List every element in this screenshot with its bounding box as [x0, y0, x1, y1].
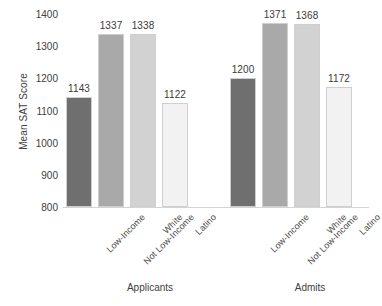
bar-value-label: 1200 — [224, 64, 262, 75]
y-tick-label: 1200 — [26, 73, 58, 84]
y-tick-label: 1400 — [26, 9, 58, 20]
group-label: Admits — [295, 282, 326, 293]
x-axis-line — [63, 207, 369, 208]
plot-area: 11431337133811221200137113681172 — [63, 14, 369, 207]
bar-value-label: 1122 — [156, 89, 194, 100]
bar — [98, 34, 124, 207]
y-tick-label: 1100 — [26, 105, 58, 116]
y-tick-label: 900 — [26, 169, 58, 180]
bar — [162, 103, 188, 207]
y-tick-label: 1000 — [26, 137, 58, 148]
y-tick-label: 800 — [26, 202, 58, 213]
category-label: Low-Income — [105, 212, 147, 254]
bar — [326, 87, 352, 207]
bar-value-label: 1172 — [320, 73, 358, 84]
bar-value-label: 1368 — [288, 10, 326, 21]
category-label: Latino — [357, 212, 382, 237]
bar — [230, 78, 256, 207]
bar — [130, 34, 156, 207]
y-tick-label: 1300 — [26, 41, 58, 52]
bar-value-label: 1143 — [60, 83, 98, 94]
bar — [66, 97, 92, 207]
bar — [262, 23, 288, 207]
category-label: Latino — [193, 212, 218, 237]
bar-value-label: 1338 — [124, 20, 162, 31]
category-label: Low-Income — [269, 212, 311, 254]
group-label: Applicants — [127, 282, 173, 293]
bar — [294, 24, 320, 207]
